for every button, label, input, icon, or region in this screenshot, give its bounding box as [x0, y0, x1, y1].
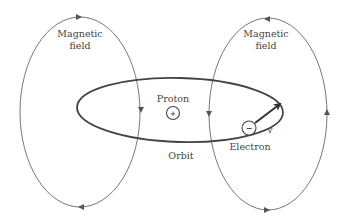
electron: − Electron	[229, 121, 270, 152]
arrow-down-icon	[206, 111, 212, 117]
orbit-label: Orbit	[168, 150, 193, 161]
arrow-right-icon	[76, 14, 82, 20]
velocity-label: v	[266, 125, 273, 135]
arrow-left-icon	[78, 204, 84, 210]
proton-label: Proton	[157, 93, 189, 104]
arrow-up-icon	[324, 109, 330, 115]
left-field-label-line2: field	[69, 40, 90, 51]
proton-symbol: +	[170, 109, 176, 118]
arrow-down-icon	[138, 107, 144, 113]
arrow-left-icon	[264, 16, 270, 22]
right-field-label-line2: field	[255, 40, 276, 51]
velocity-vector: v	[255, 104, 280, 135]
electron-label: Electron	[229, 141, 270, 152]
electron-orbit-diagram: Magnetic field Magnetic field Proton + v…	[0, 0, 345, 218]
proton: Proton +	[157, 93, 189, 120]
right-field-label-line1: Magnetic	[243, 28, 288, 39]
arrow-right-icon	[264, 207, 270, 213]
left-field-label-line1: Magnetic	[57, 28, 102, 39]
electron-symbol: −	[246, 123, 253, 133]
